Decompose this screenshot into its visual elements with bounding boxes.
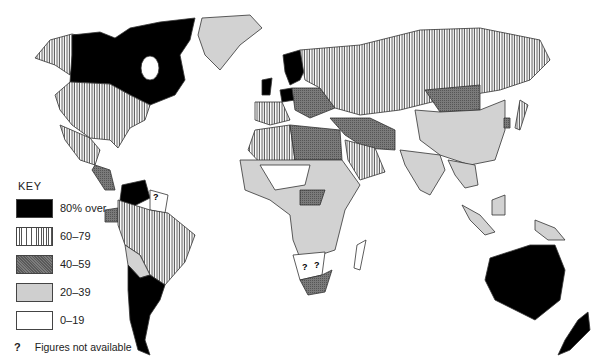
region-north-africa-algeria [248, 125, 295, 165]
key-label: 80% over [60, 202, 106, 214]
region-mongolia [425, 85, 480, 112]
key-label: 60–79 [60, 230, 91, 242]
key-item-20-39: 20–39 [6, 278, 176, 306]
key-item-40-59: 40–59 [6, 250, 176, 278]
key-item-80-over: 80% over [6, 194, 176, 222]
swatch-light-grey [16, 283, 53, 302]
region-ussr [300, 28, 550, 115]
region-australia [485, 245, 565, 320]
region-new-zealand [558, 312, 590, 355]
region-india [400, 150, 445, 195]
svg-text:?: ? [302, 262, 308, 272]
swatch-solid-black [16, 199, 53, 218]
not-available-label: Figures not available [35, 341, 132, 353]
region-greenland [198, 15, 262, 70]
region-libya-egypt [290, 125, 342, 160]
region-japan [515, 100, 528, 130]
question-mark-icon: ? [14, 341, 21, 353]
key-label: 0–19 [60, 314, 84, 326]
not-available-note: ? Figures not available [14, 341, 132, 353]
svg-text:?: ? [314, 260, 320, 270]
region-uk [262, 78, 272, 95]
region-new-guinea [535, 220, 565, 240]
map-key: KEY 80% over 60–79 40–59 20–39 0–19 [6, 180, 176, 334]
region-indonesia [462, 205, 495, 235]
swatch-white [16, 311, 53, 330]
swatch-dark-stipple [16, 255, 53, 274]
key-title: KEY [18, 180, 176, 192]
key-label: 40–59 [60, 258, 91, 270]
key-item-60-79: 60–79 [6, 222, 176, 250]
key-label: 20–39 [60, 286, 91, 298]
key-item-0-19: 0–19 [6, 306, 176, 334]
region-madagascar [354, 240, 366, 270]
region-france-iberia [255, 102, 290, 125]
region-borneo [492, 195, 505, 215]
region-korea [504, 118, 510, 128]
swatch-vertical-stripes [16, 227, 53, 246]
